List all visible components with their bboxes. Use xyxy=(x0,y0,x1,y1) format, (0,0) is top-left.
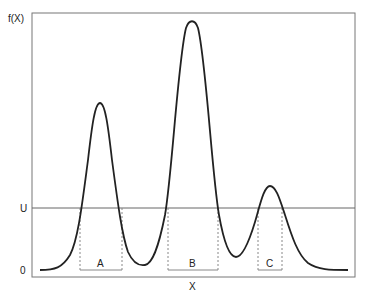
density-diagram: f(X) U 0 A B C X xyxy=(0,0,366,303)
x-axis-label: X xyxy=(189,281,196,292)
region-a-label: A xyxy=(97,258,104,269)
density-curve xyxy=(40,21,348,270)
region-b-label: B xyxy=(189,258,196,269)
threshold-label: U xyxy=(20,203,27,214)
region-c-label: C xyxy=(266,258,273,269)
y-axis-label: f(X) xyxy=(8,13,24,24)
zero-label: 0 xyxy=(20,265,26,276)
